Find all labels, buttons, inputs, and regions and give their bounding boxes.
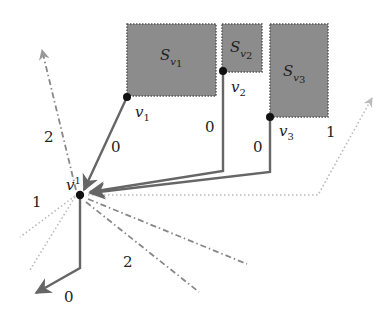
- vertex-v1: [123, 93, 131, 101]
- edge-label-dotted-left: 1: [32, 193, 42, 211]
- diagram-canvas: Sv1 Sv2 Sv3 v1 v2 v3 v1 0 0 0 2 1 1 2 0: [0, 0, 379, 315]
- vertex-label-v2: v2: [231, 78, 246, 98]
- edge-label-solid-down: 0: [64, 288, 74, 306]
- vertex-label-v1: v1: [135, 103, 150, 123]
- dashdot-edge-down-1: [88, 199, 247, 264]
- vertex-v3: [266, 113, 274, 121]
- edge-label-v2: 0: [205, 118, 215, 136]
- edge-label-dashdot-down: 2: [123, 253, 133, 271]
- edge-down: [36, 195, 80, 293]
- dashdot-edge-up: [42, 50, 76, 190]
- region-s-v3: [270, 24, 328, 117]
- edge-label-dotted-right: 1: [326, 123, 336, 141]
- dotted-edge-right: [88, 98, 372, 195]
- edge-label-v3: 0: [253, 138, 263, 156]
- diagram-svg: Sv1 Sv2 Sv3 v1 v2 v3 v1 0 0 0 2 1 1 2 0: [0, 0, 379, 315]
- edge-v1: [84, 97, 127, 190]
- vertex-v2: [219, 67, 227, 75]
- dashdot-edge-down-2: [86, 202, 199, 292]
- dotted-edge-left-1: [20, 196, 75, 237]
- edge-label-v1: 0: [111, 138, 121, 156]
- vertex-center: [76, 191, 84, 199]
- vertex-label-v3: v3: [279, 122, 294, 142]
- edge-label-dashdot-up: 2: [44, 128, 54, 146]
